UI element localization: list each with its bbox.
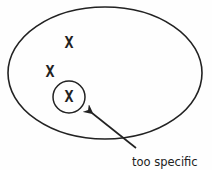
annotation-arrow	[92, 113, 136, 148]
point-x-3: X	[64, 88, 73, 106]
outer-ellipse	[8, 7, 202, 139]
annotation-label: too specific	[132, 155, 198, 169]
diagram-svg: X X X too specific	[0, 0, 212, 170]
point-x-2: X	[45, 63, 54, 81]
diagram-canvas: X X X too specific	[0, 0, 212, 170]
point-x-1: X	[64, 34, 73, 52]
